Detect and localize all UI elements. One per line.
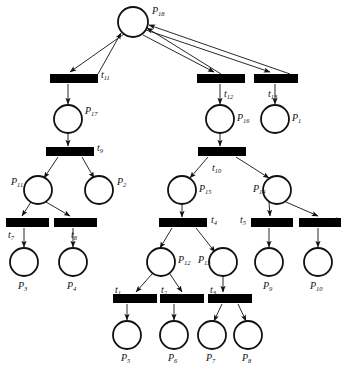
transition-label-t8: t8 bbox=[71, 230, 77, 240]
place-label-P2: P2 bbox=[117, 177, 126, 187]
place-label-P8: P8 bbox=[242, 353, 251, 363]
place-P6[interactable] bbox=[160, 321, 188, 349]
place-P9[interactable] bbox=[255, 248, 283, 276]
place-P3[interactable] bbox=[10, 248, 38, 276]
transition-label-t2: t2 bbox=[161, 285, 167, 295]
transition-label-t10: t10 bbox=[212, 163, 221, 173]
arc-t4-to-P12 bbox=[160, 228, 172, 248]
arc-layer bbox=[22, 25, 318, 321]
place-label-P11: P11 bbox=[11, 177, 23, 187]
place-P10[interactable] bbox=[304, 248, 332, 276]
arc-t4-to-P13 bbox=[196, 228, 215, 252]
place-P8[interactable] bbox=[234, 321, 262, 349]
arc-t10-to-P14 bbox=[236, 157, 269, 178]
arc-P11-to-t8 bbox=[46, 202, 70, 216]
place-label-P13: P13 bbox=[198, 255, 211, 265]
place-label-P1: P1 bbox=[292, 113, 301, 123]
transition-label-t3: t3 bbox=[210, 285, 216, 295]
place-label-P12: P12 bbox=[178, 255, 191, 265]
place-label-P5: P5 bbox=[121, 353, 130, 363]
petri-net-diagram: P18P17P16P1P11P2P15P14P3P4P12P13P9P10P5P… bbox=[0, 0, 347, 371]
arc-P12-to-t2 bbox=[170, 274, 182, 292]
transition-label-t4: t4 bbox=[211, 215, 217, 225]
transition-label-t9: t9 bbox=[97, 143, 103, 153]
arc-t3-to-P8 bbox=[238, 304, 246, 321]
arc-t3-to-P7 bbox=[214, 304, 222, 321]
place-P12[interactable] bbox=[147, 248, 175, 276]
arc-t10-to-P15 bbox=[190, 157, 208, 178]
arc-t9-to-P2 bbox=[82, 157, 94, 178]
arc-P11-to-t7 bbox=[22, 202, 31, 216]
transition-t5[interactable] bbox=[251, 218, 293, 227]
place-P4[interactable] bbox=[59, 248, 87, 276]
place-P7[interactable] bbox=[198, 321, 226, 349]
transition-t9[interactable] bbox=[46, 147, 94, 156]
place-label-P9: P9 bbox=[263, 281, 272, 291]
place-label-P7: P7 bbox=[206, 353, 215, 363]
place-P14[interactable] bbox=[263, 176, 291, 204]
transition-label-t11: t11 bbox=[101, 70, 110, 80]
place-P13[interactable] bbox=[209, 248, 237, 276]
transition-label-t1: t1 bbox=[115, 285, 121, 295]
place-P2[interactable] bbox=[85, 176, 113, 204]
transition-label-t6: t6 bbox=[335, 215, 341, 225]
place-label-P10: P10 bbox=[310, 281, 323, 291]
transition-t4[interactable] bbox=[159, 218, 207, 227]
transition-t13[interactable] bbox=[254, 74, 298, 83]
transition-t10[interactable] bbox=[198, 147, 246, 156]
arc-P14-to-t6 bbox=[286, 202, 318, 216]
place-label-P4: P4 bbox=[67, 281, 76, 291]
place-P18[interactable] bbox=[118, 7, 148, 37]
transition-t11[interactable] bbox=[50, 74, 98, 83]
arc-t9-to-P11 bbox=[44, 157, 58, 178]
arc-P12-to-t1 bbox=[136, 274, 152, 292]
place-label-P17: P17 bbox=[85, 106, 98, 116]
place-label-P6: P6 bbox=[168, 353, 177, 363]
place-P11[interactable] bbox=[24, 176, 52, 204]
place-label-P14: P14 bbox=[253, 184, 266, 194]
place-P1[interactable] bbox=[261, 105, 289, 133]
arc-P18-to-t11 bbox=[70, 34, 124, 72]
transition-label-t7: t7 bbox=[8, 230, 14, 240]
place-label-P18: P18 bbox=[152, 6, 165, 16]
arc-t11-to-P18 bbox=[98, 33, 121, 74]
place-P15[interactable] bbox=[168, 176, 196, 204]
transition-t7[interactable] bbox=[6, 218, 49, 227]
place-label-P16: P16 bbox=[237, 113, 250, 123]
place-P17[interactable] bbox=[54, 105, 82, 133]
place-label-P3: P3 bbox=[18, 281, 27, 291]
transition-label-t12: t12 bbox=[224, 89, 233, 99]
place-label-P15: P15 bbox=[199, 184, 212, 194]
transition-label-t5: t5 bbox=[240, 215, 246, 225]
arc-P14-to-t5 bbox=[269, 202, 270, 216]
petri-net-canvas bbox=[0, 0, 347, 371]
transition-t8[interactable] bbox=[54, 218, 97, 227]
place-P16[interactable] bbox=[206, 105, 234, 133]
arc-t12-to-P18 bbox=[147, 28, 221, 74]
transition-t12[interactable] bbox=[197, 74, 245, 83]
transition-label-t13: t13 bbox=[268, 89, 277, 99]
place-P5[interactable] bbox=[113, 321, 141, 349]
